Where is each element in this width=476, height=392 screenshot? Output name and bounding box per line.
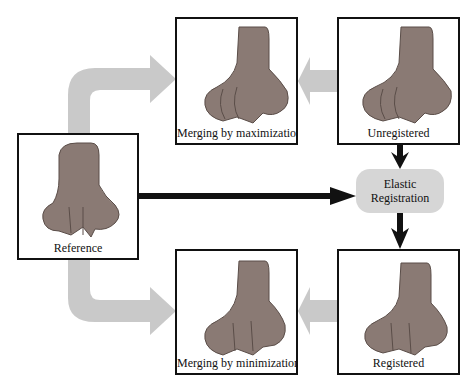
- node-label-line1: Elastic: [356, 177, 444, 191]
- black-arrow-ref-to-reg: [139, 187, 356, 205]
- panel-merge-min: Merging by minimization: [175, 249, 298, 375]
- elastic-registration-node: Elastic Registration: [356, 169, 444, 213]
- gray-arrow-to-min: [68, 260, 176, 335]
- panel-caption: Merging by minimization: [177, 356, 296, 371]
- black-arrow-unreg-to-reg: [391, 145, 409, 169]
- panel-registered: Registered: [337, 249, 460, 375]
- panel-caption: Registered: [339, 356, 458, 371]
- gray-arrow-to-max: [68, 55, 176, 133]
- node-label-line2: Registration: [356, 191, 444, 205]
- panel-reference: Reference: [17, 133, 139, 260]
- panel-unregistered: Unregistered: [337, 17, 460, 145]
- black-arrow-reg-to-registered: [391, 213, 409, 249]
- panel-merge-max: Merging by maximization: [175, 17, 298, 145]
- gray-arrow-unreg-to-max: [298, 57, 337, 105]
- panel-caption: Unregistered: [339, 126, 458, 141]
- gray-arrow-reg-to-min: [298, 287, 337, 335]
- panel-caption: Reference: [19, 241, 137, 256]
- panel-caption: Merging by maximization: [177, 126, 296, 141]
